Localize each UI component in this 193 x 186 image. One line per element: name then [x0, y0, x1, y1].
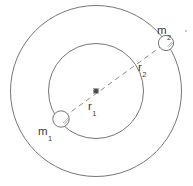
mass-m1-label-subscript: 1	[48, 134, 52, 143]
two-body-orbit-figure: m1 m2 r1 r2	[0, 0, 193, 186]
mass-m1-label: m1	[38, 122, 52, 141]
mass-m2-label-base: m	[157, 24, 167, 36]
mass-m2-label-subscript: 2	[167, 33, 171, 42]
separation-axis-dashed-line	[57, 40, 170, 122]
mass-m2-label: m2	[157, 21, 171, 40]
centre-of-mass-dot	[94, 89, 98, 93]
radius-r2-label: r2	[138, 58, 146, 77]
stray-speck-artifact	[185, 30, 187, 32]
radius-r1-label: r1	[88, 97, 96, 116]
radius-r1-label-subscript: 1	[92, 109, 96, 118]
radius-r2-label-subscript: 2	[142, 70, 146, 79]
mass-m1-label-base: m	[38, 125, 48, 137]
